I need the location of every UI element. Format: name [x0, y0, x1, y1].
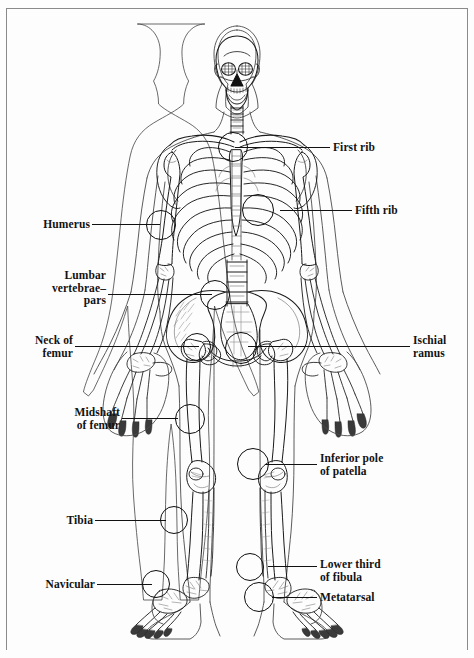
leader-lower-fibula	[268, 566, 317, 567]
marker-midshaft-femur	[175, 404, 205, 434]
marker-lumbar-pars	[200, 280, 230, 310]
label-first-rib: First rib	[333, 141, 453, 154]
anatomy-figure: Humerus Lumbar vertebrae– pars Neck of f…	[0, 0, 474, 658]
leader-fifth-rib	[280, 210, 352, 211]
marker-navicular	[142, 570, 170, 598]
marker-ischial-ramus	[225, 332, 257, 364]
label-midshaft-of-femur: Midshaft of femur	[0, 406, 120, 431]
leader-lumbar	[108, 294, 212, 295]
leader-first-rib	[235, 147, 330, 148]
label-lower-third-of-fibula: Lower third of fibula	[320, 558, 470, 583]
label-navicular: Navicular	[0, 578, 95, 591]
marker-tibia	[160, 506, 188, 534]
leader-tibia	[95, 520, 166, 521]
label-lumbar-vertebrae-pars: Lumbar vertebrae– pars	[0, 269, 106, 307]
label-neck-of-femur: Neck of femur	[0, 334, 73, 359]
leader-metatarsal	[272, 597, 317, 598]
label-tibia: Tibia	[0, 514, 93, 527]
leader-inferior-patella	[265, 464, 317, 465]
leader-neck-of-femur	[75, 346, 199, 347]
marker-first-rib	[218, 132, 248, 162]
label-metatarsal: Metatarsal	[320, 591, 470, 604]
leader-ischial-ramus	[248, 346, 410, 347]
marker-metatarsal	[244, 582, 274, 612]
marker-inferior-patella	[237, 448, 269, 480]
label-humerus: Humerus	[0, 218, 90, 231]
marker-fifth-rib	[242, 194, 274, 226]
label-inferior-pole-of-patella: Inferior pole of patella	[320, 452, 470, 477]
marker-lower-fibula	[236, 553, 264, 581]
label-ischial-ramus: Ischial ramus	[413, 334, 473, 359]
marker-neck-of-femur	[183, 333, 211, 361]
leader-midshaft-femur	[122, 418, 178, 419]
label-fifth-rib: Fifth rib	[355, 204, 465, 217]
marker-humerus	[146, 210, 176, 240]
